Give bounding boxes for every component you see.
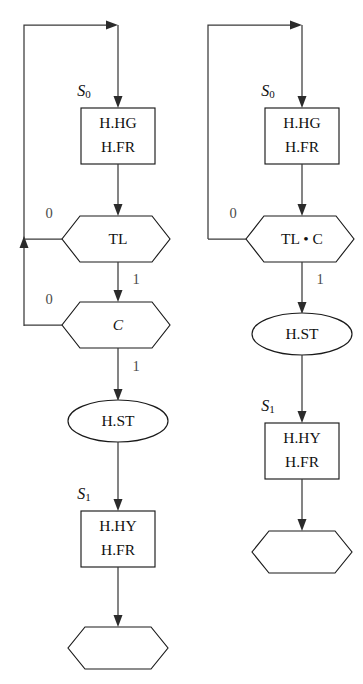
- edge-tlc-false-to-loop: 0: [208, 205, 246, 239]
- edge-entry-to-action0: [114, 25, 123, 108]
- entry-arrow-head: [298, 96, 307, 108]
- arrow-head: [114, 290, 123, 302]
- edge-c-false-to-loop: 0: [24, 291, 62, 325]
- action-box-line-1: H.HY: [283, 429, 320, 446]
- branch-label-1: 1: [132, 358, 139, 374]
- decision-label-tl: TL: [109, 230, 128, 247]
- entry-arrow-head: [114, 96, 123, 108]
- edge-action1-to-terminal: [298, 479, 307, 531]
- arrow-head: [298, 204, 307, 216]
- arrow-head: [298, 519, 307, 531]
- branch-label-0: 0: [45, 291, 52, 307]
- decision-hexagon-c: C: [62, 302, 170, 348]
- decision-label-c: C: [113, 316, 124, 333]
- action-box-line-2: H.FR: [101, 541, 136, 558]
- terminal-hexagon-empty: [68, 627, 168, 669]
- loop-merge-arrow-head: [20, 236, 29, 248]
- edge-c-true-to-st: 1: [114, 348, 140, 401]
- arrow-head: [114, 204, 123, 216]
- action-box-line-2: H.FR: [101, 138, 136, 155]
- loop-arrow-head: [106, 21, 118, 30]
- arrow-head: [114, 389, 123, 401]
- action-ellipse-st: H.ST: [252, 313, 352, 355]
- action-box-line-1: H.HY: [99, 517, 136, 534]
- terminal-hexagon-empty: [252, 531, 352, 573]
- edge-tlc-true-to-st: 1: [298, 262, 324, 314]
- decision-hexagon-tl-and-c: TL • C: [246, 216, 354, 262]
- branch-label-1: 1: [132, 271, 139, 287]
- branch-label-0: 0: [45, 205, 52, 221]
- edge-st-to-action1: [114, 442, 123, 511]
- action-box-line-1: H.HG: [283, 114, 320, 131]
- terminal-hexagon-shape: [252, 531, 352, 573]
- terminal-hexagon-shape: [68, 627, 168, 669]
- edge-st-to-action1: [298, 355, 307, 423]
- decision-hexagon-tl: TL: [62, 216, 170, 262]
- loop-path: [24, 25, 112, 326]
- flowchart-pair-svg: S0 H.HG H.FR TL 0: [0, 0, 363, 684]
- action-box-line-1: H.HG: [99, 114, 136, 131]
- action-box-hg-fr: H.HG H.FR: [265, 108, 339, 164]
- action-box-hy-fr: H.HY H.FR: [265, 423, 339, 479]
- state-label-s0: S0: [261, 82, 275, 100]
- ellipse-label-st: H.ST: [101, 412, 135, 429]
- branch-label-0: 0: [229, 205, 236, 221]
- figure-canvas: S0 H.HG H.FR TL 0: [0, 0, 363, 684]
- edge-tl-false-to-loop: 0: [24, 205, 62, 239]
- arrow-head: [114, 615, 123, 627]
- arrow-head: [114, 499, 123, 511]
- action-box-hy-fr: H.HY H.FR: [81, 511, 155, 567]
- action-box-line-2: H.FR: [285, 138, 320, 155]
- branch-label-1: 1: [316, 271, 323, 287]
- ellipse-label-st: H.ST: [285, 325, 319, 342]
- decision-label-tlc: TL • C: [281, 230, 323, 247]
- action-box-line-2: H.FR: [285, 453, 320, 470]
- state-label-s1: S1: [261, 397, 275, 415]
- action-ellipse-st: H.ST: [68, 400, 168, 442]
- edge-action0-to-tl: [114, 164, 123, 216]
- state-label-s0: S0: [77, 82, 91, 100]
- arrow-head: [298, 302, 307, 314]
- right-flowchart: S0 H.HG H.FR TL • C 0: [208, 21, 354, 574]
- edge-tl-true-to-c: 1: [114, 262, 140, 302]
- edge-action1-to-terminal: [114, 567, 123, 627]
- action-box-hg-fr: H.HG H.FR: [81, 108, 155, 164]
- edge-entry-to-action0: [298, 25, 307, 108]
- left-flowchart: S0 H.HG H.FR TL 0: [20, 21, 171, 670]
- edge-feedback-loop: [20, 21, 119, 327]
- loop-arrow-head: [290, 21, 302, 30]
- state-label-s1: S1: [77, 485, 91, 503]
- edge-action0-to-tlc: [298, 164, 307, 216]
- arrow-head: [298, 411, 307, 423]
